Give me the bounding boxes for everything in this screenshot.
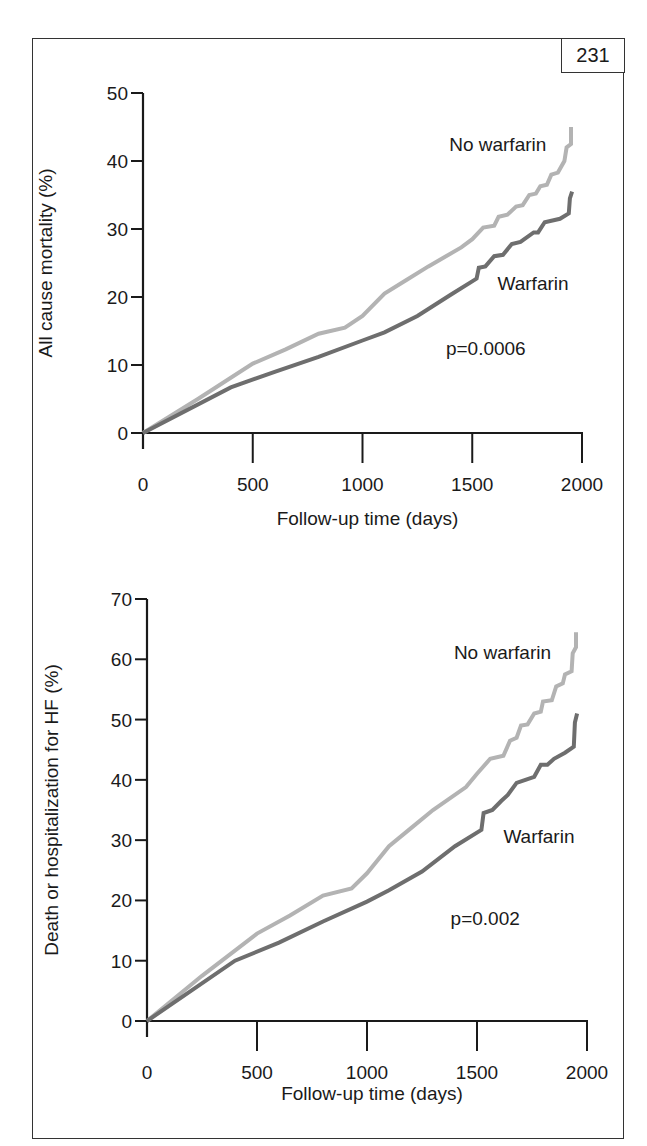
p-value-annotation: p=0.002 [451,908,520,929]
series-label-warfarin: Warfarin [503,826,574,847]
series-label-no-warfarin: No warfarin [454,642,551,663]
x-axis-title: Follow-up time (days) [281,1083,463,1104]
x-tick-label: 0 [142,1062,153,1083]
y-tick-label: 50 [111,710,132,731]
y-tick-label: 60 [111,649,132,670]
x-tick-label: 2000 [566,1062,608,1083]
chart-death-or-hf-hospitalization: 0102030405060700500100015002000Follow-up… [0,0,647,1146]
x-tick-label: 1000 [346,1062,388,1083]
y-tick-label: 10 [111,951,132,972]
x-tick-label: 500 [241,1062,273,1083]
x-tick-label: 1500 [456,1062,498,1083]
y-axis-title: Death or hospitalization for HF (%) [41,664,62,955]
y-tick-label: 40 [111,770,132,791]
y-tick-label: 20 [111,890,132,911]
y-tick-label: 0 [121,1011,132,1032]
y-tick-label: 70 [111,589,132,610]
series-line-warfarin [147,714,577,1022]
y-tick-label: 30 [111,830,132,851]
